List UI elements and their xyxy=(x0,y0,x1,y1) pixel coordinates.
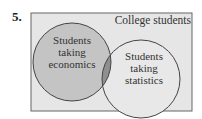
economics-label: Students taking economics xyxy=(42,34,102,70)
statistics-label: Students taking statistics xyxy=(114,50,174,86)
universe-label: College students xyxy=(106,14,191,26)
